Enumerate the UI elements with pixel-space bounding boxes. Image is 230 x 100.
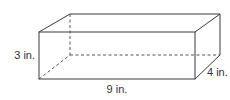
dimension-labels: 3 in. 9 in. 4 in. — [14, 49, 228, 95]
rectangular-prism-diagram: 3 in. 9 in. 4 in. — [0, 0, 230, 100]
edge-top-left-depth — [39, 14, 70, 32]
edge-top-right-depth — [195, 14, 220, 32]
visible-edges — [39, 14, 220, 79]
width-label: 4 in. — [207, 66, 228, 78]
length-label: 9 in. — [107, 83, 128, 95]
height-label: 3 in. — [14, 49, 35, 61]
hidden-edge-bottom-left-depth — [39, 55, 70, 79]
hidden-edges — [39, 14, 220, 79]
